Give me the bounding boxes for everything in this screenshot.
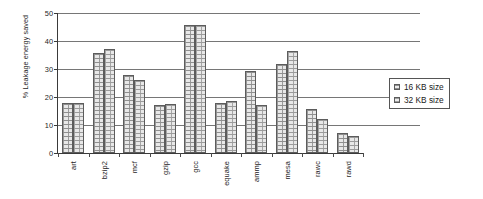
legend-swatch-icon: [394, 84, 400, 90]
bar: [104, 49, 115, 153]
bar-group: [302, 13, 333, 153]
bar: [215, 103, 226, 153]
y-tick-label: 10: [45, 121, 53, 130]
x-axis-labels: artbzip2mcfgzipgccequakeammpmesarawcrawd: [58, 159, 363, 199]
chart-legend: 16 KB size 32 KB size: [389, 78, 450, 109]
x-tick-mark: [119, 153, 120, 157]
x-label-cell: gcc: [180, 159, 211, 199]
x-label-cell: mesa: [272, 159, 303, 199]
bar: [256, 105, 267, 153]
x-tick-mark: [58, 153, 59, 157]
x-axis-label-bzip2: bzip2: [99, 161, 108, 179]
bar: [287, 51, 298, 153]
bar-chart: % Leakage energy saved 01020304050 artbz…: [0, 0, 483, 199]
bar-group: [333, 13, 364, 153]
y-tick-label: 50: [45, 9, 53, 18]
x-axis-ticks: [58, 153, 363, 157]
x-axis-label-art: art: [69, 161, 78, 170]
x-axis-label-mcf: mcf: [130, 161, 139, 173]
x-tick-mark: [89, 153, 90, 157]
bar: [73, 103, 84, 153]
legend-item-16kb: 16 KB size: [394, 82, 444, 92]
bar: [62, 103, 73, 153]
x-tick-mark: [180, 153, 181, 157]
bar-group: [58, 13, 89, 153]
bar: [154, 105, 165, 153]
bar: [165, 104, 176, 153]
bar-group: [89, 13, 120, 153]
legend-swatch-icon: [394, 97, 400, 103]
bar: [348, 136, 359, 153]
x-label-cell: equake: [211, 159, 242, 199]
bar: [184, 25, 195, 153]
legend-item-32kb: 32 KB size: [394, 95, 444, 105]
x-axis-label-rawd: rawd: [343, 161, 352, 177]
bar: [317, 119, 328, 153]
bar-group: [180, 13, 211, 153]
bar: [337, 133, 348, 153]
bar: [134, 80, 145, 153]
x-label-cell: gzip: [150, 159, 181, 199]
x-tick-mark: [150, 153, 151, 157]
bar-group: [241, 13, 272, 153]
bar: [306, 109, 317, 153]
x-axis-label-mesa: mesa: [282, 161, 291, 179]
bar-group: [119, 13, 150, 153]
x-label-cell: rawc: [302, 159, 333, 199]
legend-label-16kb: 16 KB size: [404, 82, 444, 92]
y-tick-label: 40: [45, 37, 53, 46]
legend-label-32kb: 32 KB size: [404, 95, 444, 105]
bar: [93, 53, 104, 153]
y-tick-label: 30: [45, 65, 53, 74]
x-label-cell: rawd: [333, 159, 364, 199]
bar-group: [211, 13, 242, 153]
bar: [226, 101, 237, 153]
x-tick-mark: [211, 153, 212, 157]
bar: [245, 71, 256, 153]
x-axis-label-gcc: gcc: [191, 161, 200, 173]
x-tick-mark: [241, 153, 242, 157]
x-label-cell: bzip2: [89, 159, 120, 199]
x-label-cell: art: [58, 159, 89, 199]
bar: [195, 25, 206, 153]
bar-group: [272, 13, 303, 153]
plot-area: 01020304050: [57, 13, 362, 153]
x-axis-label-rawc: rawc: [313, 161, 322, 177]
bar-group: [150, 13, 181, 153]
x-axis-label-ammp: ammp: [252, 161, 261, 182]
x-tick-mark: [302, 153, 303, 157]
y-tick-label: 20: [45, 93, 53, 102]
y-axis-title: % Leakage energy saved: [21, 0, 30, 122]
y-tick-label: 0: [49, 149, 53, 158]
x-axis-label-gzip: gzip: [160, 161, 169, 175]
x-label-cell: mcf: [119, 159, 150, 199]
x-tick-mark: [363, 153, 364, 157]
x-label-cell: ammp: [241, 159, 272, 199]
bar: [123, 75, 134, 153]
x-tick-mark: [272, 153, 273, 157]
x-tick-mark: [333, 153, 334, 157]
x-axis-label-equake: equake: [221, 161, 230, 186]
bar-groups: [58, 13, 363, 153]
bar: [276, 64, 287, 153]
